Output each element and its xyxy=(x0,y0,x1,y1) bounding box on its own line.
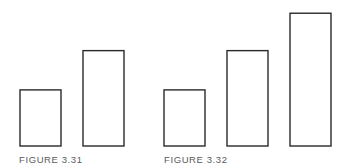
figure-3-32-bar-1 xyxy=(164,90,205,146)
figure-3-32-bar-3 xyxy=(290,13,331,146)
figure-3-32-bar-2 xyxy=(227,51,268,146)
figure-3-31 xyxy=(20,51,124,146)
figures-canvas: FIGURE 3.31 FIGURE 3.32 xyxy=(0,0,348,168)
figure-3-31-bar-1 xyxy=(20,90,61,146)
figure-3-31-bar-2 xyxy=(83,51,124,146)
figure-3-31-caption: FIGURE 3.31 xyxy=(19,154,83,165)
figure-3-32 xyxy=(164,13,331,146)
figure-3-32-caption: FIGURE 3.32 xyxy=(164,154,228,165)
